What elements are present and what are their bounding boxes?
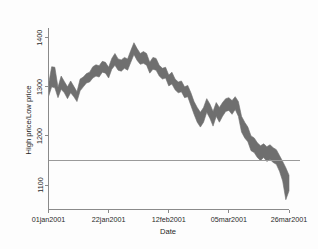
price-range-area-chart: 1100120013001400 01jan200122jan200112feb… <box>0 0 318 249</box>
x-tick-label: 05mar2001 <box>211 215 247 224</box>
y-tick-label: 1100 <box>36 177 45 192</box>
y-axis-title: High price/Low price <box>24 86 33 155</box>
y-tick-label: 1200 <box>36 128 45 144</box>
x-tick-label: 12feb2001 <box>152 215 186 224</box>
chart-container: 1100120013001400 01jan200122jan200112feb… <box>0 0 318 249</box>
y-tick-label: 1400 <box>36 30 45 46</box>
y-tick-label: 1300 <box>36 79 45 95</box>
x-axis-title: Date <box>160 227 176 236</box>
x-tick-label: 01jan2001 <box>32 215 66 224</box>
x-tick-label: 26mar2001 <box>271 215 307 224</box>
x-tick-label: 22jan2001 <box>92 215 126 224</box>
